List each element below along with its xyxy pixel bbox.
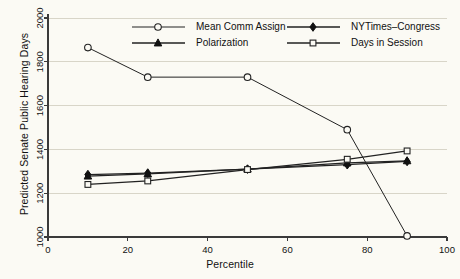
legend-label: Polarization [196,37,248,48]
data-point-open-circle [344,126,351,133]
x-tick-label: 60 [282,244,293,255]
y-tick-label: 1400 [34,139,45,160]
x-tick-label: 0 [45,244,50,255]
legend-label: NYTimes–Congress [351,21,440,32]
y-tick-label: 1000 [34,226,45,247]
x-tick-label: 80 [362,244,373,255]
legend-label: Days in Session [351,37,423,48]
y-tick-label: 1200 [34,183,45,204]
data-point-open-square [344,156,350,162]
data-point-open-circle [244,74,251,81]
x-axis-title: Percentile [0,258,460,270]
data-point-open-square [245,167,251,173]
data-point-open-square [85,182,91,188]
y-axis-title: Predicted Senate Public Hearing Days [18,14,30,234]
x-tick-label: 20 [123,244,134,255]
data-point-open-square [145,178,151,184]
data-point-open-circle [155,24,162,31]
y-tick-label: 1600 [34,95,45,116]
legend-label: Mean Comm Assign [196,21,285,32]
figure-container: 100012001400160018002000 020406080100 Me… [0,0,460,279]
data-point-open-circle [404,233,411,240]
data-point-open-circle [144,74,151,81]
data-point-open-square [310,40,316,46]
x-tick-label: 100 [439,244,455,255]
line-chart: 100012001400160018002000 020406080100 Me… [0,0,460,279]
y-tick-label: 2000 [34,7,45,28]
y-tick-label: 1800 [34,51,45,72]
data-point-open-square [404,148,410,154]
x-tick-label: 40 [202,244,213,255]
data-point-open-circle [85,44,92,51]
